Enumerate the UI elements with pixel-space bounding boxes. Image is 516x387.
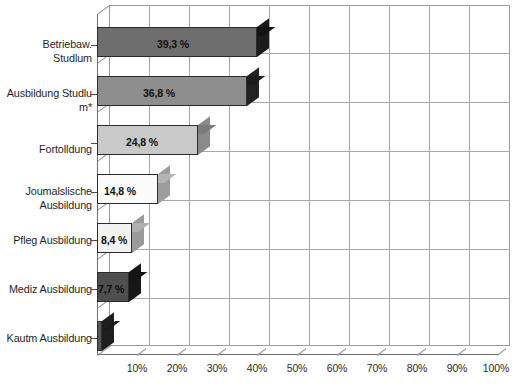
xtick-label-100: 100% [476, 362, 516, 374]
category-label-line1: Ausbildung Studlu [7, 87, 92, 99]
xtick-label-60: 60% [317, 362, 357, 374]
category-label-line1: Pfleg Ausbildung [13, 234, 92, 246]
bar-face-7 [97, 321, 102, 351]
category-label-journalistische-ausbildung: Joumalslische Ausbildung [0, 185, 92, 212]
category-label-line2: m* [79, 101, 92, 113]
category-label-kaufmaennische-ausbildung: Kautm Ausbildung [0, 332, 92, 346]
xtick-label-40: 40% [237, 362, 277, 374]
category-label-fortbildung: Fortolldung [0, 143, 92, 157]
ytick-1 [91, 45, 97, 46]
category-label-line1: Betriebaw. [43, 38, 92, 50]
category-label-pflege-ausbildung: Pfleg Ausbildung [0, 234, 92, 248]
xtick-label-80: 80% [397, 362, 437, 374]
xtick-label-70: 70% [357, 362, 397, 374]
ytick-6 [91, 289, 97, 290]
bar-value-label-5: 8,4 % [101, 234, 127, 246]
xtick-label-30: 30% [197, 362, 237, 374]
xtick-label-20: 20% [157, 362, 197, 374]
bar-value-label-2: 36,8 % [143, 87, 175, 99]
category-label-betriebaw-studium: Betriebaw. Studlum [0, 38, 92, 65]
xtick-label-50: 50% [277, 362, 317, 374]
category-label-line1: Fortolldung [39, 143, 92, 155]
bar-chart: 39,3 % 36,8 % 24,8 % 14,8 % 8,4 % 7,7 % [0, 0, 516, 387]
category-label-line2: Studlum [53, 52, 92, 64]
xtick-mark-100 [497, 348, 506, 356]
xtick-label-90: 90% [437, 362, 477, 374]
ytick-5 [91, 240, 97, 241]
bar-value-label-3: 24,8 % [126, 136, 158, 148]
category-label-line1: Joumalslische [25, 185, 92, 197]
ytick-3 [91, 143, 97, 144]
category-label-line2: Ausbildung [40, 199, 92, 211]
ytick-2 [91, 94, 97, 95]
category-label-line1: Mediz Ausbildung [9, 283, 92, 295]
bar-kaufmaennische-ausbildung [97, 321, 102, 351]
category-label-ausbildung-studium: Ausbildung Studlu m* [0, 87, 92, 114]
xtick-label-10: 10% [117, 362, 157, 374]
category-label-line1: Kautm Ausbildung [7, 332, 92, 344]
category-label-medizin-ausbildung: Mediz Ausbildung [0, 283, 92, 297]
bar-value-label-6: 7,7 % [98, 283, 124, 295]
bar-value-label-4: 14,8 % [104, 185, 136, 197]
ytick-4 [91, 192, 97, 193]
bar-value-label-1: 39,3 % [157, 38, 189, 50]
ytick-7 [91, 338, 97, 339]
